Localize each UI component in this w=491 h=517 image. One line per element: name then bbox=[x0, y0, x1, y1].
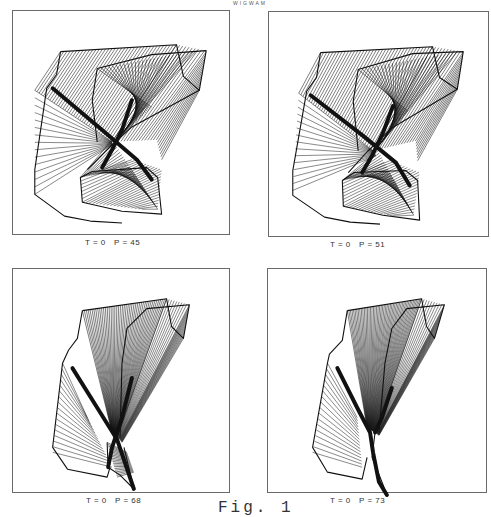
ruled-surface-drawing bbox=[13, 11, 229, 234]
ruling-lines bbox=[35, 45, 206, 209]
panel-caption: T = 0 P = 51 bbox=[330, 240, 385, 249]
figure-label: Fig. 1 bbox=[218, 499, 294, 517]
panel-caption: T = 0 P = 68 bbox=[86, 496, 141, 505]
plot-panel-p51 bbox=[268, 11, 489, 237]
ruling-lines bbox=[293, 47, 463, 216]
plot-panel-p73 bbox=[267, 268, 487, 493]
ruled-surface-drawing bbox=[268, 269, 486, 492]
plot-panel-p45 bbox=[12, 10, 230, 235]
header-text: WIGWAM bbox=[200, 0, 300, 6]
ruled-surface-drawing bbox=[269, 12, 488, 236]
panel-caption: T = 0 P = 45 bbox=[85, 238, 140, 247]
plot-panel-p68 bbox=[12, 268, 230, 493]
panel-caption: T = 0 P = 73 bbox=[330, 496, 385, 505]
ruled-surface-drawing bbox=[13, 269, 229, 492]
ruling-lines bbox=[313, 299, 445, 467]
